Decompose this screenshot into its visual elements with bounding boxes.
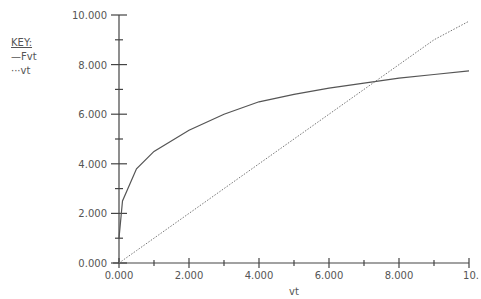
series-vt-line — [119, 21, 469, 263]
x-tick-label: 10. — [463, 270, 479, 281]
x-tick-label: 6.000 — [315, 270, 344, 281]
x-tick-label: 4.000 — [245, 270, 274, 281]
x-tick-label: 0.000 — [105, 270, 134, 281]
y-tick-label: 2.000 — [78, 208, 107, 219]
series-fvt-line — [119, 71, 469, 238]
x-tick-label: 2.000 — [175, 270, 204, 281]
legend-title: KEY: — [11, 36, 37, 50]
y-tick-label: 10.000 — [72, 10, 107, 21]
chart-canvas: 0.0002.0004.0006.0008.00010.0000.0002.00… — [0, 0, 481, 299]
y-tick-label: 0.000 — [78, 258, 107, 269]
legend-entry-vt: ···vt — [11, 64, 37, 78]
y-tick-label: 6.000 — [78, 109, 107, 120]
y-tick-label: 4.000 — [78, 159, 107, 170]
x-axis-label: vt — [289, 286, 299, 297]
legend: KEY: —Fvt ···vt — [11, 36, 37, 78]
y-tick-label: 8.000 — [78, 60, 107, 71]
legend-entry-fvt: —Fvt — [11, 50, 37, 64]
x-tick-label: 8.000 — [385, 270, 414, 281]
